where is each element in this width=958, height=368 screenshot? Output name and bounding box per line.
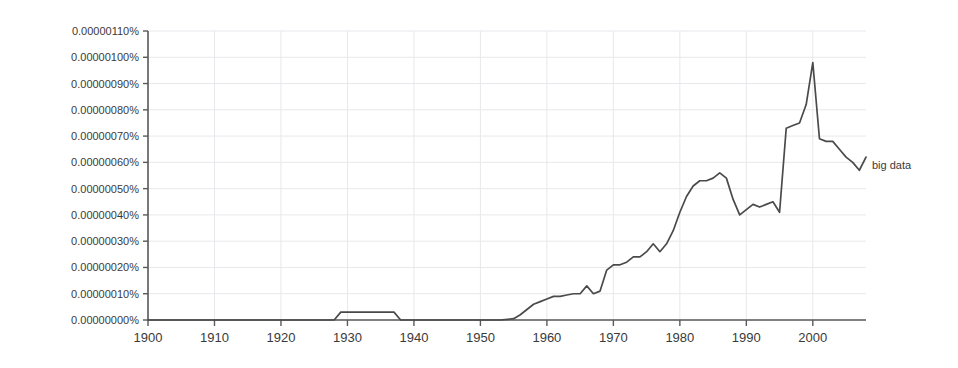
axis-lines	[148, 31, 866, 320]
series-labels-group: big data	[872, 159, 912, 171]
y-tick-label: 0.00000050%	[71, 183, 139, 195]
x-tick-label: 1940	[399, 330, 428, 345]
ngram-plot-svg: 0.00000110%0.00000100%0.00000090%0.00000…	[0, 0, 958, 368]
y-tick-label: 0.00000040%	[71, 209, 139, 221]
x-tick-label: 1920	[267, 330, 296, 345]
x-tick-label: 1990	[732, 330, 761, 345]
x-tick-label: 1970	[599, 330, 628, 345]
x-tick-label: 1930	[333, 330, 362, 345]
x-tick-label: 1900	[134, 330, 163, 345]
y-tick-label: 0.00000100%	[71, 51, 139, 63]
y-tick-label: 0.00000000%	[71, 314, 139, 326]
y-tick-label: 0.00000020%	[71, 261, 139, 273]
data-series-group[interactable]	[148, 63, 866, 320]
x-tick-label: 1980	[665, 330, 694, 345]
x-tick-label: 2000	[798, 330, 827, 345]
y-tick-label: 0.00000090%	[71, 78, 139, 90]
x-tick-label: 1910	[200, 330, 229, 345]
series-label-0: big data	[872, 159, 912, 171]
x-axis-ticks	[148, 320, 813, 326]
y-tick-label: 0.00000030%	[71, 235, 139, 247]
x-tick-label: 1950	[466, 330, 495, 345]
y-tick-label: 0.00000070%	[71, 130, 139, 142]
y-tick-label: 0.00000080%	[71, 104, 139, 116]
y-axis-tick-labels: 0.00000110%0.00000100%0.00000090%0.00000…	[71, 25, 139, 326]
ngram-chart: 0.00000110%0.00000100%0.00000090%0.00000…	[0, 0, 958, 368]
y-tick-label: 0.00000010%	[71, 288, 139, 300]
x-tick-label: 1960	[532, 330, 561, 345]
y-tick-label: 0.00000060%	[71, 156, 139, 168]
horizontal-gridlines	[148, 31, 866, 320]
series-line-0[interactable]	[148, 63, 866, 320]
y-tick-label: 0.00000110%	[72, 25, 139, 37]
vertical-gridlines	[148, 31, 813, 320]
x-axis-tick-labels: 1900191019201930194019501960197019801990…	[134, 330, 828, 345]
